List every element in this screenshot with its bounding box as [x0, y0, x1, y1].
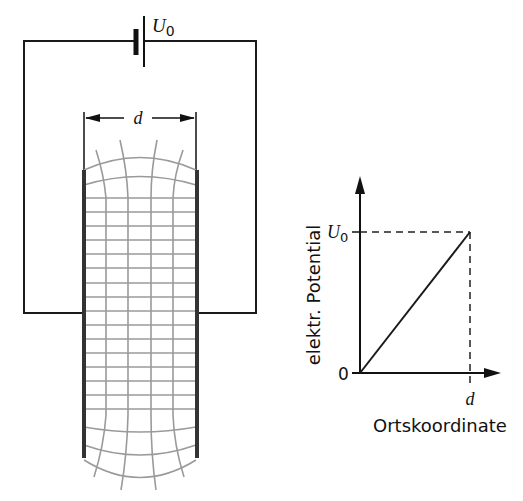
battery-icon: [136, 16, 144, 67]
field-lines: [84, 140, 196, 490]
y-axis-label: elektr. Potential: [303, 225, 324, 366]
x-axis-label: Ortskoordinate: [373, 415, 507, 436]
x-tick-d: d: [466, 389, 476, 409]
dimension-label: d: [134, 108, 144, 128]
y-tick-u0: U0: [327, 222, 348, 245]
x-axis-arrow-icon: [484, 368, 501, 378]
y-axis-arrow-icon: [355, 176, 365, 194]
capacitor-diagram: U0 d: [0, 0, 523, 501]
potential-graph: [352, 176, 501, 385]
potential-line: [360, 232, 470, 373]
voltage-label: U0: [152, 15, 175, 39]
y-tick-zero: 0: [338, 364, 349, 384]
